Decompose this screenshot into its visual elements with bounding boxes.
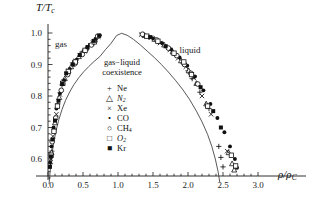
marker-square-filled — [60, 82, 64, 86]
series-o2 — [49, 34, 238, 168]
legend-label-subscript: 4 — [129, 127, 132, 133]
gas-region-label: gas — [55, 39, 67, 49]
series-legend: +Ne△N2×Xe•CO○CH4□O2■Kr — [104, 84, 132, 154]
marker-dot-filled — [215, 116, 219, 120]
marker-circle-open — [59, 88, 64, 93]
x-tick-label: 1.5 — [147, 180, 159, 190]
marker-square-open — [205, 104, 209, 108]
marker-square-open — [52, 129, 56, 133]
liquid-region-label: liquid — [180, 45, 202, 55]
marker-square-open — [229, 153, 233, 157]
phase-diagram-figure: 0.00.51.01.52.02.53.00.60.70.80.91.0gasl… — [0, 0, 316, 214]
x-tick-label: 0.0 — [42, 180, 54, 190]
marker-square-filled — [92, 39, 96, 43]
marker-square-filled — [148, 35, 152, 39]
y-tick-label: 0.7 — [31, 123, 43, 133]
marker-square-filled — [49, 154, 53, 158]
marker-square-filled — [57, 99, 61, 103]
marker-square-open — [182, 60, 186, 64]
coexistence-curve — [49, 33, 220, 184]
marker-square-open — [233, 164, 237, 168]
marker-square-filled — [86, 45, 90, 49]
marker-square-open — [172, 51, 176, 55]
x-tick-label: 1.0 — [112, 180, 124, 190]
marker-square-filled — [199, 85, 203, 89]
y-axis-label: T/Tc — [36, 2, 55, 14]
marker-square-filled — [78, 53, 82, 57]
x-tick-label: 2.0 — [182, 180, 194, 190]
x-tick-label: 2.5 — [217, 180, 229, 190]
marker-square-open — [189, 72, 193, 76]
y-tick-label: 0.9 — [31, 60, 43, 70]
marker-square-filled — [64, 71, 68, 75]
legend-label-subscript: 2 — [123, 137, 126, 143]
legend-label: Kr — [117, 143, 126, 154]
coexistence-annotation: gas−liquid coexistence — [84, 57, 160, 77]
series-co — [48, 33, 239, 170]
marker-square-filled — [219, 126, 223, 130]
x-tick-label: 0.5 — [77, 180, 89, 190]
marker-plus — [218, 155, 223, 160]
marker-cross — [200, 94, 204, 98]
marker-plus — [216, 144, 221, 149]
coex-line-1: gas−liquid — [84, 57, 160, 67]
marker-dot-filled — [50, 144, 54, 148]
marker-square-open — [156, 39, 160, 43]
legend-marker-icon: ■ — [104, 143, 115, 154]
series-n2 — [49, 33, 237, 172]
x-axis-label: ρ/ρC — [278, 169, 297, 181]
y-tick-label: 0.6 — [31, 154, 43, 164]
legend-label-subscript: 2 — [123, 97, 126, 103]
marker-square-filled — [51, 137, 55, 141]
coex-line-2: coexistence — [84, 67, 160, 77]
marker-dot-filled — [228, 144, 232, 148]
series-xe — [49, 32, 230, 161]
marker-square-open — [55, 104, 59, 108]
marker-square-filled — [164, 44, 168, 48]
marker-square-filled — [71, 63, 75, 67]
marker-square-filled — [97, 34, 101, 38]
x-tick-label: 3.0 — [252, 180, 264, 190]
marker-square-filled — [48, 165, 52, 169]
y-tick-label: 0.8 — [31, 91, 43, 101]
marker-dot-filled — [160, 41, 164, 45]
y-tick-label: 1.0 — [31, 28, 43, 38]
marker-square-filled — [53, 119, 57, 123]
marker-dot-filled — [222, 130, 226, 134]
plot-canvas: 0.00.51.01.52.02.53.00.60.70.80.91.0gasl… — [0, 0, 316, 214]
marker-plus — [220, 164, 225, 169]
legend-item-kr: ■Kr — [104, 144, 132, 154]
marker-dot-filled — [48, 160, 52, 164]
marker-square-filled — [211, 109, 215, 113]
